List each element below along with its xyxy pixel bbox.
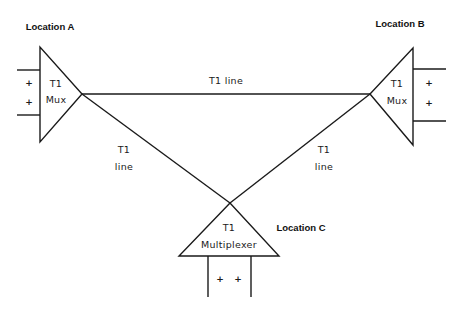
node-a-port-1: + — [25, 78, 33, 88]
node-b-port-2: + — [425, 98, 433, 108]
location-c-label: Location C — [276, 222, 325, 233]
diagram-svg: T1 line T1 line T1 line Location A + + T… — [0, 0, 461, 313]
link-a-c-label-line1: T1 — [117, 144, 130, 155]
mux-a-label-line2: Mux — [46, 94, 67, 105]
location-a-label: Location A — [26, 21, 75, 32]
mux-b-label-line2: Mux — [387, 95, 408, 106]
node-c-port-1: + — [216, 274, 224, 284]
link-a-c-label-line2: line — [115, 161, 133, 172]
node-c: Location C T1 Multiplexer + + — [179, 203, 326, 297]
link-a-c — [82, 94, 230, 203]
link-b-c-label-line2: line — [315, 161, 333, 172]
network-diagram: T1 line T1 line T1 line Location A + + T… — [0, 0, 461, 313]
location-b-label: Location B — [375, 18, 424, 29]
multiplexer-c-label-line1: T1 — [222, 222, 235, 233]
node-b-port-1: + — [425, 78, 433, 88]
link-b-c — [230, 94, 370, 203]
link-a-b-label: T1 line — [208, 75, 243, 86]
node-b: Location B + + T1 Mux — [370, 18, 446, 145]
node-a: Location A + + T1 Mux — [17, 21, 82, 142]
link-b-c-label-line1: T1 — [317, 144, 330, 155]
mux-b-label-line1: T1 — [390, 78, 403, 89]
multiplexer-c-label-line2: Multiplexer — [201, 239, 257, 250]
node-c-port-2: + — [234, 274, 242, 284]
node-a-port-2: + — [25, 97, 33, 107]
mux-a-label-line1: T1 — [49, 78, 62, 89]
